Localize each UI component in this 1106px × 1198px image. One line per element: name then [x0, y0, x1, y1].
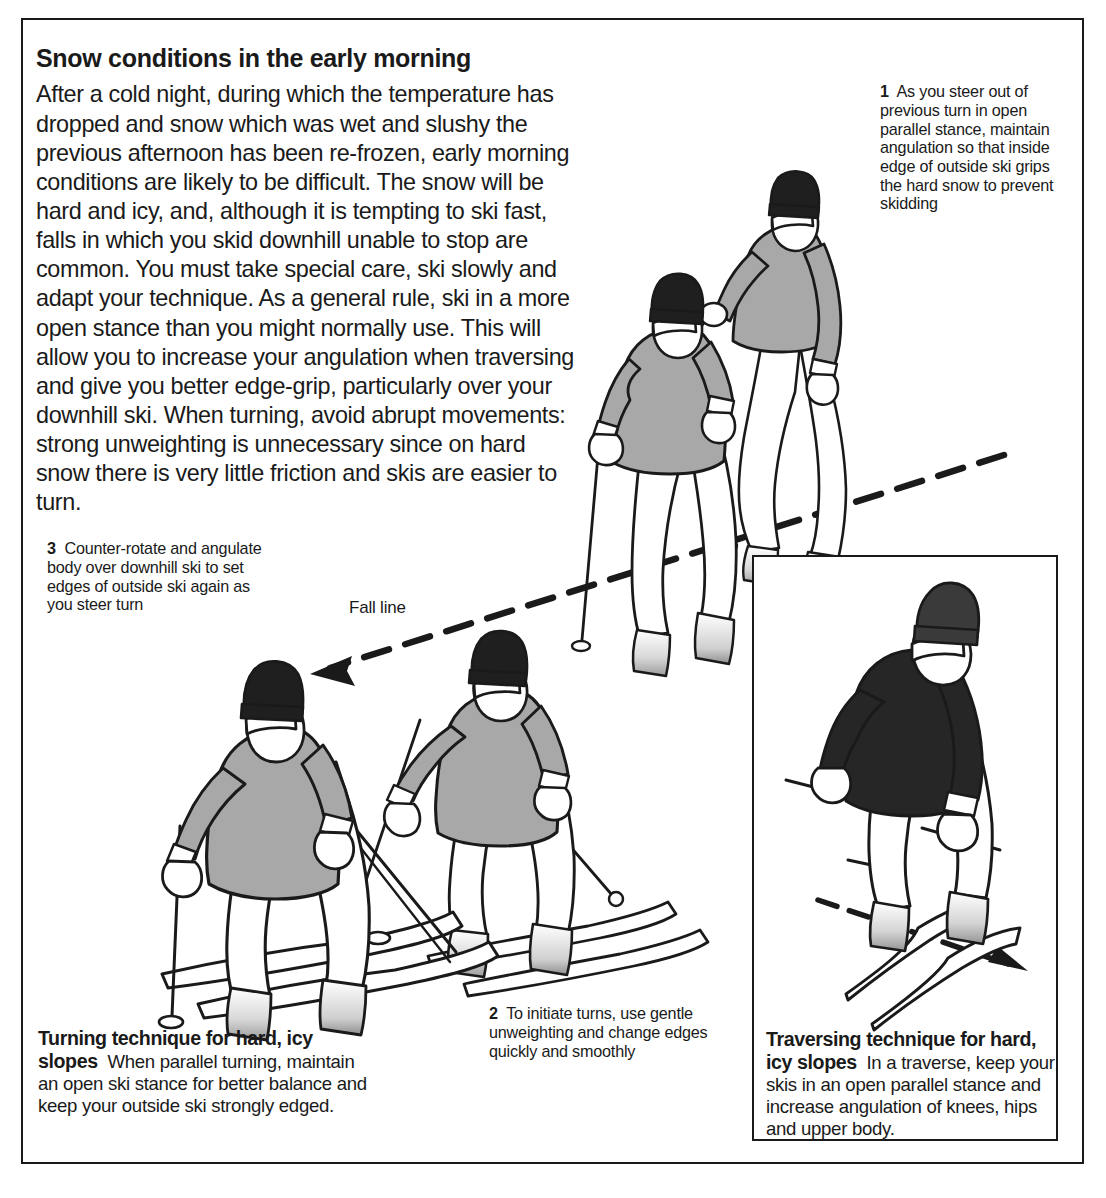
step-2-note: 2 To initiate turns, use gentle unweight… [489, 1004, 709, 1060]
illustration-page: Snow conditions in the early morning Aft… [0, 0, 1106, 1198]
step-1-text: As you steer out of previous turn in ope… [880, 82, 1053, 212]
page-title: Snow conditions in the early morning [36, 45, 596, 73]
step-1-note: 1 As you steer out of previous turn in o… [880, 82, 1070, 213]
step-1-number: 1 [880, 82, 889, 100]
fall-line-label: Fall line [349, 598, 406, 618]
step-2-text: To initiate turns, use gentle unweightin… [489, 1004, 708, 1059]
turning-technique-caption: Turning technique for hard, icy slopes W… [38, 1027, 368, 1118]
intro-paragraph: After a cold night, during which the tem… [36, 80, 581, 517]
step-2-number: 2 [489, 1004, 498, 1022]
step-3-text: Counter-rotate and angulate body over do… [47, 539, 262, 613]
traversing-technique-caption: Traversing technique for hard, icy slope… [766, 1028, 1056, 1141]
step-3-note: 3 Counter-rotate and angulate body over … [47, 539, 272, 614]
step-3-number: 3 [47, 539, 56, 557]
